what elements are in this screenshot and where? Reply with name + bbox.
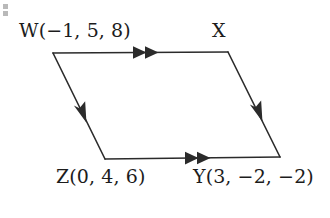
vertex-label-y: Y(3, −2, −2) — [193, 167, 314, 186]
edge-zy-arrowhead-1 — [185, 152, 199, 165]
vertex-label-x: X — [212, 21, 226, 40]
edge-wz — [53, 53, 105, 159]
vertex-label-z: Z(0, 4, 6) — [56, 167, 145, 186]
edge-wz-arrowhead-1 — [74, 101, 87, 122]
edge-xy-arrow-markers — [250, 100, 263, 121]
edge-zy-arrow-markers — [185, 152, 211, 165]
edge-xy — [228, 52, 280, 157]
parallelogram-figure: W(−1, 5, 8) X Y(3, −2, −2) Z(0, 4, 6) — [0, 0, 330, 218]
edge-wx-arrow-markers — [133, 46, 159, 59]
edge-wz-arrow-markers — [74, 101, 87, 122]
parallelogram-outline — [53, 52, 280, 159]
scan-artifact-lower — [3, 11, 8, 16]
edge-wx-arrowhead-2 — [145, 46, 159, 59]
vertex-label-w: W(−1, 5, 8) — [19, 21, 131, 40]
edge-xy-arrowhead-1 — [250, 100, 263, 121]
edge-zy-arrowhead-2 — [197, 152, 211, 165]
edge-wx-arrowhead-1 — [133, 46, 147, 59]
scan-artifact-upper — [3, 4, 8, 9]
